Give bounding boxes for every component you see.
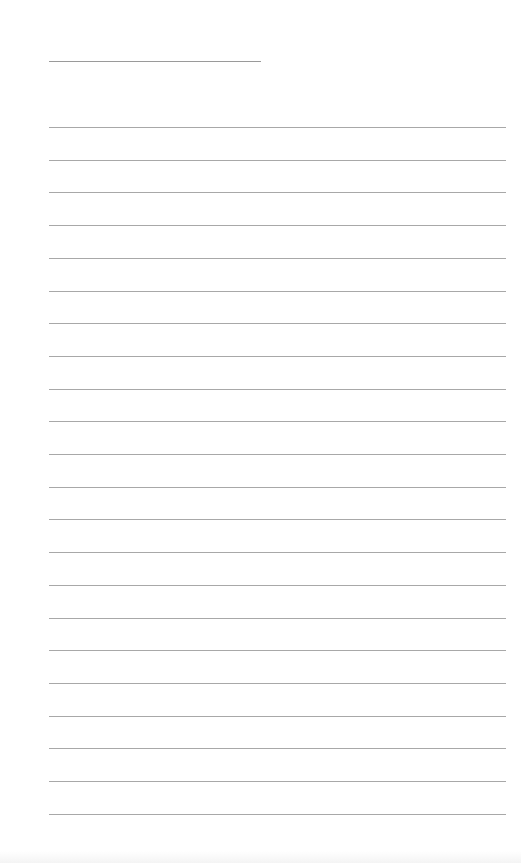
ruled-line	[49, 323, 506, 324]
ruled-line	[49, 781, 506, 782]
ruled-line	[49, 258, 506, 259]
ruled-line	[49, 683, 506, 684]
page-bottom-edge	[0, 851, 521, 863]
name-line	[49, 61, 261, 62]
ruled-line	[49, 716, 506, 717]
ruled-line	[49, 192, 506, 193]
ruled-line	[49, 487, 506, 488]
ruled-line	[49, 127, 506, 128]
ruled-line	[49, 585, 506, 586]
ruled-line	[49, 748, 506, 749]
ruled-line	[49, 356, 506, 357]
ruled-line	[49, 225, 506, 226]
ruled-line	[49, 519, 506, 520]
ruled-line	[49, 618, 506, 619]
ruled-line	[49, 291, 506, 292]
ruled-line	[49, 160, 506, 161]
ruled-line	[49, 454, 506, 455]
ruled-line	[49, 814, 506, 815]
ruled-line	[49, 552, 506, 553]
ruled-line	[49, 421, 506, 422]
ruled-line	[49, 650, 506, 651]
ruled-line	[49, 389, 506, 390]
